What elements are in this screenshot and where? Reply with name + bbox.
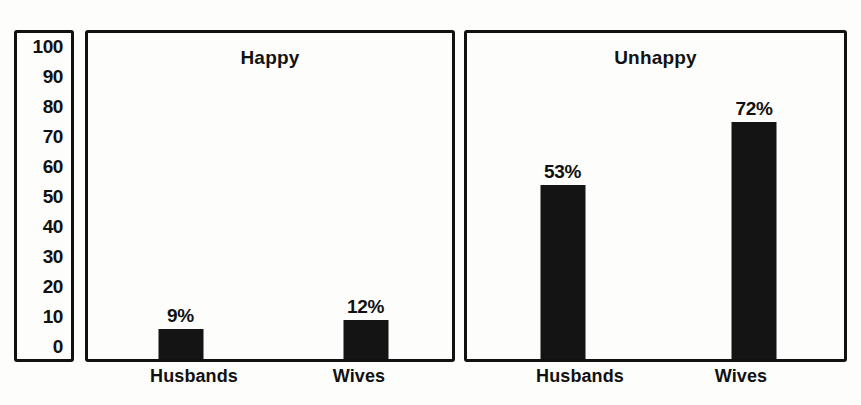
y-tick-80: 80 bbox=[43, 97, 63, 116]
bar-group-happy-husbands[interactable]: 9% bbox=[158, 305, 203, 359]
bar-unhappy-wives[interactable] bbox=[732, 122, 777, 359]
bar-group-unhappy-husbands[interactable]: 53% bbox=[540, 161, 585, 359]
bar-slot-happy-wives: 12% bbox=[273, 30, 458, 359]
bar-group-unhappy-wives[interactable]: 72% bbox=[732, 98, 777, 359]
bar-value-happy-husbands: 9% bbox=[167, 305, 194, 327]
y-tick-90: 90 bbox=[43, 67, 63, 86]
bar-value-unhappy-wives: 72% bbox=[735, 98, 772, 120]
panel-unhappy-plot-area: 53% 72% bbox=[467, 30, 844, 359]
bar-value-happy-wives: 12% bbox=[347, 296, 384, 318]
bar-happy-wives[interactable] bbox=[343, 320, 388, 359]
y-tick-20: 20 bbox=[43, 277, 63, 296]
category-label-unhappy-wives: Wives bbox=[715, 366, 767, 387]
y-tick-40: 40 bbox=[43, 217, 63, 236]
category-label-happy-husbands: Husbands bbox=[150, 366, 238, 387]
category-label-unhappy-husbands: Husbands bbox=[536, 366, 624, 387]
y-tick-0: 0 bbox=[53, 337, 63, 356]
bar-slot-happy-husbands: 9% bbox=[88, 30, 273, 359]
y-tick-60: 60 bbox=[43, 157, 63, 176]
panel-happy-plot-area: 9% 12% bbox=[88, 30, 452, 359]
y-tick-30: 30 bbox=[43, 247, 63, 266]
bar-group-happy-wives[interactable]: 12% bbox=[343, 296, 388, 359]
y-tick-50: 50 bbox=[43, 187, 63, 206]
y-tick-10: 10 bbox=[43, 307, 63, 326]
bar-slot-unhappy-wives: 72% bbox=[658, 30, 850, 359]
chart-page: 100 90 80 70 60 50 40 30 20 10 0 Happy 9… bbox=[0, 0, 861, 405]
category-label-happy-wives: Wives bbox=[333, 366, 385, 387]
bar-unhappy-husbands[interactable] bbox=[540, 185, 585, 359]
bar-slot-unhappy-husbands: 53% bbox=[467, 30, 658, 359]
y-axis-tick-list: 100 90 80 70 60 50 40 30 20 10 0 bbox=[17, 33, 71, 359]
bar-happy-husbands[interactable] bbox=[158, 329, 203, 359]
panel-happy: Happy 9% 12% bbox=[85, 30, 455, 362]
y-tick-100: 100 bbox=[32, 37, 63, 56]
y-axis-scale-box: 100 90 80 70 60 50 40 30 20 10 0 bbox=[14, 30, 74, 362]
panel-unhappy: Unhappy 53% 72% bbox=[464, 30, 847, 362]
bar-value-unhappy-husbands: 53% bbox=[544, 161, 581, 183]
y-tick-70: 70 bbox=[43, 127, 63, 146]
